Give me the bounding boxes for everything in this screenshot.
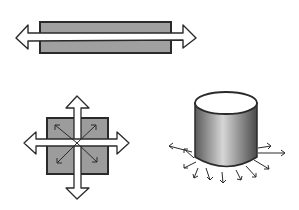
diagram-canvas (0, 0, 299, 210)
cylinder-radial-figure (169, 92, 285, 183)
bar-uniaxial-figure (16, 22, 196, 53)
square-biaxial-figure (24, 96, 129, 199)
